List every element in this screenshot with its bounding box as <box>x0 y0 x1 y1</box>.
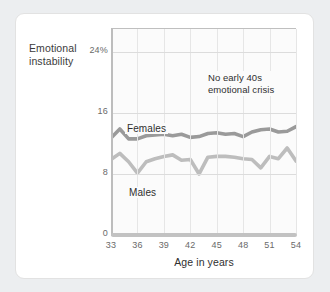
vertical-gridline-42 <box>190 29 191 234</box>
annotation-line-2: emotional crisis <box>208 84 274 96</box>
x-tick-36: 36 <box>127 240 147 250</box>
series-label-females: Females <box>125 123 168 134</box>
x-axis-title: Age in years <box>111 256 297 268</box>
x-tick-39: 39 <box>154 240 174 250</box>
x-tick-51: 51 <box>260 240 280 250</box>
y-tick-24%: 24% <box>66 45 108 55</box>
y-axis-tick-labels: 081624% <box>62 28 108 234</box>
x-tick-54: 54 <box>286 240 306 250</box>
vertical-gridline-45 <box>217 29 218 234</box>
x-axis-baseline <box>111 233 297 237</box>
horizontal-gridline-16 <box>111 113 296 114</box>
vertical-gridline-48 <box>243 29 244 234</box>
x-tick-48: 48 <box>233 240 253 250</box>
vertical-gridline-51 <box>270 29 271 234</box>
y-axis-line <box>111 28 113 236</box>
series-label-males: Males <box>127 187 158 198</box>
vertical-gridline-54 <box>296 29 297 234</box>
y-tick-8: 8 <box>66 167 108 177</box>
horizontal-gridline-8 <box>111 174 296 175</box>
y-tick-16: 16 <box>66 106 108 116</box>
x-tick-42: 42 <box>180 240 200 250</box>
horizontal-gridline-24% <box>111 52 296 53</box>
x-tick-45: 45 <box>207 240 227 250</box>
x-tick-33: 33 <box>101 240 121 250</box>
x-axis-tick-labels: 3336394245485154 <box>111 240 297 254</box>
annotation-no-crisis: No early 40s emotional crisis <box>205 71 277 96</box>
line-series-males <box>111 148 296 174</box>
annotation-line-1: No early 40s <box>208 72 274 84</box>
chart-card: Emotional instability Females Males No e… <box>15 13 314 279</box>
y-tick-0: 0 <box>66 228 108 238</box>
plot-area: Females Males No early 40s emotional cri… <box>111 28 296 234</box>
